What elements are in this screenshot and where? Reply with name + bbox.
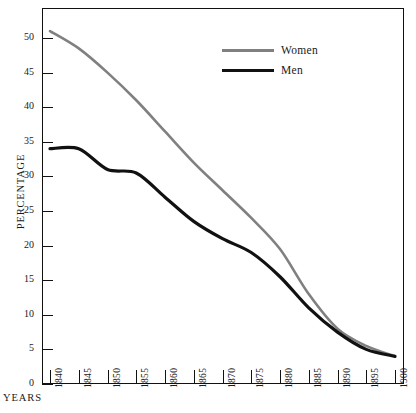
legend-label-women: Women <box>281 44 318 56</box>
x-tick-mark <box>223 370 224 384</box>
x-tick-label: 1875 <box>255 368 265 388</box>
x-tick-label: 1865 <box>198 368 208 388</box>
legend-line-men-icon <box>222 69 274 72</box>
x-tick-mark <box>395 370 396 384</box>
x-tick-mark <box>136 370 137 384</box>
x-tick-mark <box>280 370 281 384</box>
y-tick-mark <box>42 176 53 177</box>
x-tick-label: 1855 <box>140 368 150 388</box>
legend-item-men: Men <box>222 60 318 80</box>
x-tick-label: 1890 <box>342 368 352 388</box>
y-tick-mark <box>42 246 53 247</box>
y-tick-label: 20 <box>0 240 34 250</box>
y-tick-mark <box>42 107 53 108</box>
clipped-title-text <box>60 0 290 1</box>
y-tick-mark <box>42 142 53 143</box>
x-tick-label: 1885 <box>313 368 323 388</box>
y-tick-mark <box>42 211 53 212</box>
x-tick-mark <box>309 370 310 384</box>
x-tick-mark <box>79 370 80 384</box>
y-tick-label: 0 <box>0 378 34 388</box>
y-tick-label: 5 <box>0 343 34 353</box>
x-tick-label: 1845 <box>83 368 93 388</box>
y-tick-mark <box>42 315 53 316</box>
legend-item-women: Women <box>222 40 318 60</box>
y-tick-label: 40 <box>0 101 34 111</box>
y-tick-label: 10 <box>0 309 34 319</box>
x-tick-mark <box>366 370 367 384</box>
y-tick-mark <box>42 280 53 281</box>
y-tick-mark <box>42 384 53 385</box>
y-tick-label: 15 <box>0 274 34 284</box>
legend-label-men: Men <box>281 64 303 76</box>
y-tick-label: 50 <box>0 32 34 42</box>
x-tick-label: 1850 <box>112 368 122 388</box>
x-tick-mark <box>338 370 339 384</box>
x-tick-label: 1870 <box>227 368 237 388</box>
y-tick-mark <box>42 73 53 74</box>
y-tick-label: 35 <box>0 136 34 146</box>
x-tick-mark <box>165 370 166 384</box>
x-tick-mark <box>50 370 51 384</box>
chart-legend: Women Men <box>222 40 318 80</box>
y-tick-label: 45 <box>0 67 34 77</box>
x-tick-label: 1840 <box>54 368 64 388</box>
y-tick-mark <box>42 349 53 350</box>
x-tick-mark <box>251 370 252 384</box>
x-axis-title: YEARS <box>3 392 42 403</box>
x-tick-label: 1900 <box>399 368 409 388</box>
x-tick-mark <box>194 370 195 384</box>
y-tick-mark <box>42 38 53 39</box>
x-tick-label: 1895 <box>370 368 380 388</box>
x-tick-label: 1880 <box>284 368 294 388</box>
y-axis-title: PERCENTAGE <box>15 149 26 235</box>
chart-page: 05101520253035404550 PERCENTAGE 18401845… <box>0 0 416 413</box>
x-tick-mark <box>108 370 109 384</box>
legend-line-women-icon <box>222 49 274 52</box>
x-tick-label: 1860 <box>169 368 179 388</box>
